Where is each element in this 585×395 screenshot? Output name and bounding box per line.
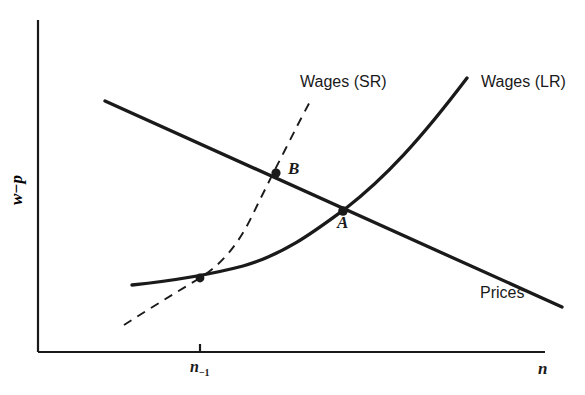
point-label-b: B (288, 160, 299, 177)
curve-label-prices: Prices (480, 285, 524, 301)
point-marker-unlabeled (196, 274, 205, 283)
x-tick-label-subscript: −1 (199, 367, 210, 378)
point-marker-b (271, 168, 280, 177)
x-tick-label-n-minus-1: n−1 (190, 359, 210, 378)
economics-figure: Wages (SR) Wages (LR) Prices B A w−p n n… (0, 0, 585, 395)
x-axis-label: n (538, 360, 547, 377)
plot-canvas (0, 0, 585, 395)
curve-prices (105, 101, 562, 307)
y-axis-label: w−p (7, 175, 27, 205)
y-axis-label-wrapper: w−p (2, 155, 32, 225)
curve-label-wages-sr: Wages (SR) (300, 74, 387, 90)
curve-label-wages-lr: Wages (LR) (481, 74, 566, 90)
curve-wages-lr (132, 78, 467, 285)
point-label-a: A (337, 214, 348, 231)
curve-wages-sr (124, 98, 312, 325)
x-tick-label-base: n (190, 358, 199, 375)
